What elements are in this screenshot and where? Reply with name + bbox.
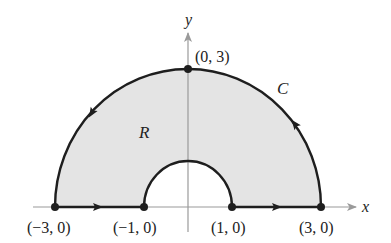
point-label-neg1-0: (−1, 0) (113, 219, 157, 237)
point-label-3-0: (3, 0) (299, 219, 334, 237)
point-3-0 (317, 203, 325, 211)
y-axis-label: y (183, 11, 193, 29)
curve-label: C (277, 79, 289, 98)
point-neg1-0 (140, 203, 148, 211)
region-label: R (138, 123, 150, 142)
x-axis-label: x (361, 198, 369, 215)
point-1-0 (228, 203, 236, 211)
point-label-neg3-0: (−3, 0) (27, 219, 71, 237)
point-neg3-0 (51, 203, 59, 211)
annulus-diagram: y x C R (0, 3) (−3, 0) (−1, 0) (1, 0) (3… (0, 0, 391, 243)
point-label-0-3: (0, 3) (195, 48, 230, 66)
point-0-3 (184, 65, 192, 73)
point-label-1-0: (1, 0) (211, 219, 246, 237)
